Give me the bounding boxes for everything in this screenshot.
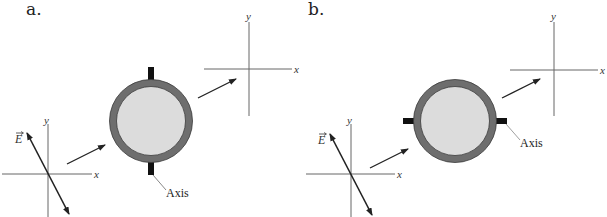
- x-axis-label: x: [293, 63, 299, 75]
- panel-label-a: a.: [26, 0, 42, 19]
- x-axis-label: x: [599, 64, 605, 76]
- output-axes-b: x y: [510, 10, 605, 116]
- axis-callout-line-b: [506, 124, 520, 140]
- e-field-vector-a: E: [14, 132, 69, 215]
- output-axes-a: x y: [204, 10, 299, 116]
- polarizer-diagram: a. x y E Axis: [0, 0, 607, 217]
- y-axis-label: y: [245, 10, 251, 22]
- input-axes-b: x y: [306, 114, 402, 217]
- axis-tab-top: [148, 67, 154, 80]
- outgoing-beam-arrow-a: [198, 79, 236, 98]
- axis-tab-bottom: [148, 162, 154, 175]
- y-axis-label: y: [346, 114, 352, 126]
- incoming-beam-arrow-b: [370, 149, 408, 168]
- x-axis-label: x: [396, 168, 402, 180]
- axis-callout-b: Axis: [520, 136, 543, 150]
- filter-disc: [417, 83, 493, 159]
- filter-disc: [113, 83, 189, 159]
- polarizer-filter-a: [110, 67, 193, 175]
- y-axis-label: y: [550, 10, 556, 22]
- x-axis-label: x: [93, 168, 99, 180]
- panel-label-b: b.: [308, 0, 324, 19]
- axis-callout-line-a: [153, 175, 166, 190]
- panel-b: b. x y E Axis: [306, 0, 605, 217]
- panel-a: a. x y E Axis: [2, 0, 299, 217]
- axis-callout-a: Axis: [166, 186, 189, 200]
- y-axis-label: y: [43, 114, 49, 126]
- outgoing-beam-arrow-b: [502, 79, 540, 98]
- polarizer-filter-b: [403, 80, 507, 163]
- incoming-beam-arrow-a: [67, 145, 105, 164]
- input-axes-a: x y: [2, 114, 99, 217]
